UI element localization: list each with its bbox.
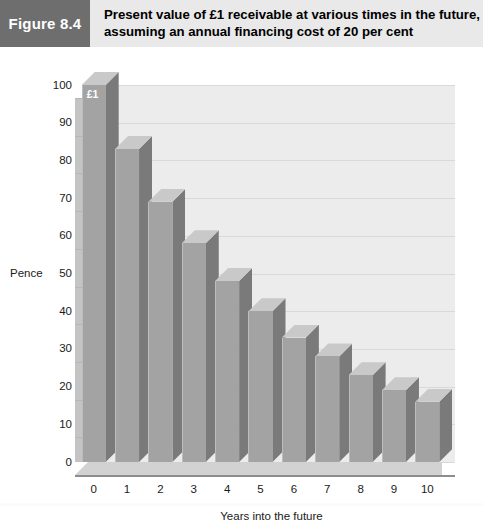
figure-header: Figure 8.4 Present value of £1 receivabl… [0, 0, 483, 47]
gridline [88, 123, 455, 124]
bar [349, 362, 386, 462]
bar-front-face [415, 402, 439, 462]
figure-title: Present value of £1 receivable at variou… [90, 0, 483, 47]
x-axis-title: Years into the future [88, 510, 455, 522]
y-tick-label: 10 [8, 419, 72, 431]
x-tick-label: 3 [177, 484, 211, 496]
x-tick-label: 4 [210, 484, 244, 496]
y-tick-label: 80 [8, 155, 72, 167]
bar-front-face [215, 281, 239, 462]
y-tick-label: 60 [8, 230, 72, 242]
y-axis-title: Pence [10, 268, 56, 280]
bar-front-face [349, 375, 373, 462]
x-tick-label: 1 [110, 484, 144, 496]
bar [248, 298, 285, 462]
bar-front-face [248, 311, 272, 462]
y-tick-label: 70 [8, 193, 72, 205]
figure-title-line-1: Present value of £1 receivable at variou… [104, 7, 480, 24]
bar [115, 136, 152, 462]
chart-area: £1 0102030405060708090100 Pence 01234567… [0, 47, 483, 506]
page-bottom-edge [0, 503, 483, 506]
bar-front-face [148, 202, 172, 462]
bar [148, 189, 185, 462]
gridline [88, 85, 455, 86]
plot-floor [75, 462, 442, 475]
bar-value-annotation: £1 [87, 89, 99, 100]
bar-front-face [182, 243, 206, 462]
bar [382, 377, 419, 462]
bar [282, 325, 319, 462]
x-tick-label: 2 [143, 484, 177, 496]
bar-front-face [82, 85, 106, 462]
bar [315, 343, 352, 462]
x-tick-label: 0 [77, 484, 111, 496]
figure-title-line-2: assuming an annual financing cost of 20 … [104, 24, 480, 41]
bar-front-face [115, 149, 139, 462]
y-tick-label: 20 [8, 381, 72, 393]
x-tick-label: 8 [344, 484, 378, 496]
bar-front-face [282, 338, 306, 462]
y-tick-label: 0 [8, 457, 72, 469]
x-tick-label: 9 [377, 484, 411, 496]
x-tick-label: 5 [244, 484, 278, 496]
bar [415, 389, 452, 462]
x-axis-line [75, 475, 455, 477]
x-tick-label: 6 [277, 484, 311, 496]
figure-number-badge: Figure 8.4 [0, 0, 90, 47]
y-tick-label: 30 [8, 343, 72, 355]
x-tick-label: 7 [310, 484, 344, 496]
bar-front-face [315, 356, 339, 462]
bar [215, 268, 252, 462]
bar-front-face [382, 390, 406, 462]
y-tick-label: 90 [8, 117, 72, 129]
bar [82, 72, 119, 462]
x-tick-label: 10 [410, 484, 444, 496]
y-tick-label: 100 [8, 80, 72, 92]
bar [182, 230, 219, 462]
y-tick-label: 40 [8, 306, 72, 318]
plot-floor-right-mask [442, 462, 455, 475]
